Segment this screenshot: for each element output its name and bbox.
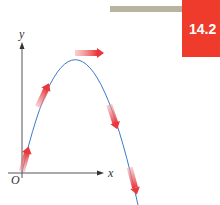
velocity-arrow-falling <box>105 103 123 131</box>
x-axis-arrowhead-icon <box>97 171 104 176</box>
origin-label: O <box>11 173 20 187</box>
velocity-arrow-end <box>125 166 142 196</box>
velocity-arrow-start <box>17 145 33 173</box>
trajectory-curve <box>22 60 138 205</box>
trajectory-diagram: y x O <box>0 0 220 205</box>
x-axis-label: x <box>107 166 114 180</box>
velocity-arrow-peak <box>75 48 104 58</box>
velocity-arrow-rising <box>33 81 53 109</box>
y-axis-label: y <box>18 27 25 41</box>
y-axis-arrowhead-icon <box>20 42 25 49</box>
